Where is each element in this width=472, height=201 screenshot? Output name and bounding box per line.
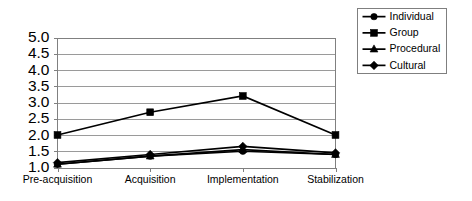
x-axis-tick-labels: Pre-acquisitionAcquisitionImplementation… bbox=[23, 173, 364, 185]
y-tick-label: 3.0 bbox=[28, 93, 50, 110]
x-tick-label: Acquisition bbox=[125, 173, 176, 185]
y-tick-label: 2.5 bbox=[28, 109, 50, 126]
x-tick-label: Stabilization bbox=[307, 173, 364, 185]
y-axis-tick-labels: 5.04.54.03.53.02.52.01.51.0 bbox=[28, 28, 50, 175]
y-tick-label: 2.0 bbox=[28, 126, 50, 143]
legend-label-cultural: Cultural bbox=[390, 59, 426, 71]
y-tick-label: 5.0 bbox=[28, 28, 50, 45]
y-tick-label: 4.5 bbox=[28, 44, 50, 61]
y-tick-marks bbox=[54, 39, 58, 169]
gridlines-group bbox=[58, 55, 336, 152]
data-point-group-2 bbox=[239, 93, 246, 100]
legend-marker-circle-icon bbox=[371, 13, 377, 19]
legend-label-individual: Individual bbox=[390, 10, 434, 22]
y-tick-label: 1.5 bbox=[28, 142, 50, 159]
data-point-group-3 bbox=[332, 132, 339, 139]
legend-label-group: Group bbox=[390, 26, 419, 38]
y-tick-label: 3.5 bbox=[28, 77, 50, 94]
data-series-lines bbox=[58, 96, 336, 164]
y-tick-label: 4.0 bbox=[28, 61, 50, 78]
x-tick-label: Pre-acquisition bbox=[23, 173, 93, 185]
line-chart: 5.04.54.03.53.02.52.01.51.0 Pre-acquisit… bbox=[0, 0, 472, 201]
data-point-group-0 bbox=[54, 132, 61, 139]
legend-label-procedural: Procedural bbox=[390, 42, 441, 54]
x-tick-label: Implementation bbox=[207, 173, 279, 185]
legend-marker-square-icon bbox=[371, 29, 378, 36]
data-point-group-1 bbox=[147, 109, 154, 116]
series-line-group bbox=[58, 96, 336, 135]
chart-legend: IndividualGroupProceduralCultural bbox=[358, 9, 447, 74]
chart-canvas: 5.04.54.03.53.02.52.01.51.0 Pre-acquisit… bbox=[0, 0, 472, 201]
